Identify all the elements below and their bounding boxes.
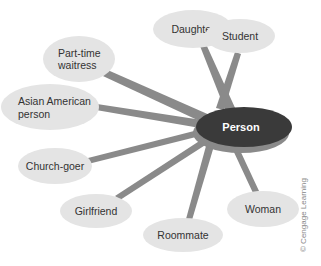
- center-label: Person: [222, 121, 260, 133]
- node-roommate: Roommate: [143, 218, 223, 252]
- node-part-time-waitress: Part-time waitress: [43, 36, 115, 82]
- node-girlfriend: Girlfriend: [60, 194, 132, 228]
- node-label-line2: person: [18, 108, 50, 120]
- node-asian-american-person: Asian American person: [1, 84, 99, 130]
- node-label-line2: waitress: [57, 59, 97, 71]
- center-node-person: Person: [193, 107, 292, 153]
- copyright-notice: © Cengage Learning: [299, 178, 308, 252]
- node-label: Woman: [245, 203, 281, 215]
- node-label: Student: [222, 30, 258, 42]
- node-label: Girlfriend: [75, 205, 118, 217]
- node-woman: Woman: [227, 191, 299, 227]
- connector-roommate: [186, 146, 214, 220]
- node-student: Student: [205, 19, 275, 53]
- connector-woman: [232, 146, 259, 193]
- node-label-line1: Part-time: [58, 47, 101, 59]
- node-label: Church-goer: [26, 160, 85, 172]
- concept-map: Daughter Student Part-time waitress Asia…: [0, 0, 321, 266]
- node-church-goer: Church-goer: [18, 148, 92, 184]
- node-label: Roommate: [157, 229, 209, 241]
- node-label-line1: Asian American: [18, 95, 91, 107]
